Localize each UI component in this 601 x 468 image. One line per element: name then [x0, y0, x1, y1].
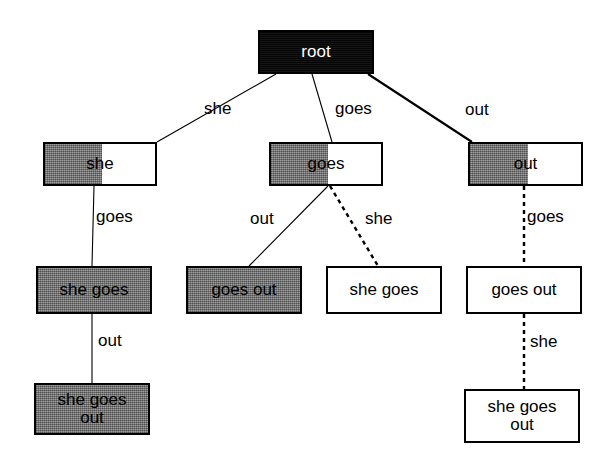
- tree-node-goes-out-alt[interactable]: goes out: [466, 266, 582, 314]
- edge-label-she-shegoes: goes: [96, 207, 133, 227]
- edge-she-shegoes: [92, 186, 94, 266]
- edge-label-root-goes: goes: [335, 99, 372, 119]
- tree-node-goes[interactable]: goes: [269, 142, 383, 186]
- edge-label-goes-goesout: out: [250, 209, 274, 229]
- tree-node-label: root: [301, 43, 330, 61]
- tree-node-label: goes: [308, 155, 345, 173]
- tree-node-label: she: [86, 155, 113, 173]
- tree-node-label: out: [514, 155, 538, 173]
- tree-node-she[interactable]: she: [43, 142, 157, 186]
- edge-label-goes-shegoes: she: [365, 209, 392, 229]
- tree-node-goes-out[interactable]: goes out: [186, 266, 302, 314]
- tree-node-she-goes[interactable]: she goes: [36, 266, 152, 314]
- tree-node-root[interactable]: root: [258, 30, 374, 74]
- tree-node-label: goes out: [491, 281, 556, 299]
- edge-root-goes: [312, 74, 332, 142]
- tree-node-label: she goes: [350, 281, 419, 299]
- tree-node-label: she goes out: [58, 391, 127, 427]
- tree-node-she-goes-alt[interactable]: she goes: [326, 266, 442, 314]
- edge-label-goesout-shegoesout: she: [530, 332, 557, 352]
- edge-label-root-she: she: [204, 99, 231, 119]
- tree-node-label: goes out: [211, 281, 276, 299]
- tree-node-label: she goes: [60, 281, 129, 299]
- tree-node-she-goes-out-alt[interactable]: she goes out: [464, 389, 580, 443]
- tree-node-she-goes-out[interactable]: she goes out: [34, 383, 150, 435]
- edge-label-shegoes-shegoesout: out: [98, 331, 122, 351]
- tree-node-label: she goes out: [488, 398, 557, 434]
- edge-label-root-out: out: [465, 100, 489, 120]
- edge-root-out: [368, 74, 472, 142]
- edge-label-out-goesout: goes: [527, 207, 564, 227]
- phrase-tree-diagram: rootshegoesoutshe goesgoes outshe goesgo…: [0, 0, 601, 468]
- tree-node-out[interactable]: out: [468, 142, 583, 186]
